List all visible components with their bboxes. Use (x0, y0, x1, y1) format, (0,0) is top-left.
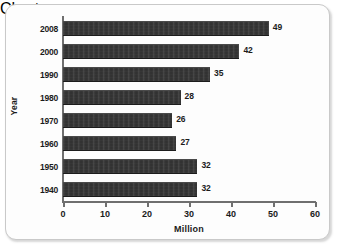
bar-value-label: 32 (201, 183, 210, 193)
x-axis-tick-mark (189, 202, 191, 207)
bar-row: 49 (63, 21, 315, 36)
x-axis-tick-label: 20 (132, 209, 162, 219)
bar-value-label: 49 (273, 22, 282, 32)
y-axis-tick-label: 2008 (26, 24, 58, 34)
x-axis-title: Million (63, 224, 315, 234)
y-axis-tick-label: 1990 (26, 70, 58, 80)
chart-card: Year 20082000199019801970196019501940 49… (5, 4, 330, 240)
bar-row: 32 (63, 159, 315, 174)
x-axis-tick-mark (315, 202, 317, 207)
x-axis-tick-mark (273, 202, 275, 207)
bar (63, 159, 197, 174)
y-axis-tick-label: 1940 (26, 185, 58, 195)
x-axis-tick-label: 30 (174, 209, 204, 219)
bar-row: 28 (63, 90, 315, 105)
bar-value-label: 35 (214, 68, 223, 78)
bar (63, 44, 239, 59)
y-axis-tick-label: 2000 (26, 47, 58, 57)
x-axis-tick-label: 40 (216, 209, 246, 219)
bar-row: 27 (63, 136, 315, 151)
x-axis-tick-mark (63, 202, 65, 207)
bar-row: 35 (63, 67, 315, 82)
bar-row: 32 (63, 182, 315, 197)
bar-row: 26 (63, 113, 315, 128)
y-axis-tick-label: 1980 (26, 93, 58, 103)
x-axis-tick-label: 60 (300, 209, 330, 219)
plot-area: 4942352826273232 (63, 17, 315, 201)
y-axis-tick-label: 1960 (26, 139, 58, 149)
bar (63, 21, 269, 36)
bar-value-label: 32 (201, 160, 210, 170)
x-axis-tick-mark (231, 202, 233, 207)
bar (63, 67, 210, 82)
bar-value-label: 26 (176, 114, 185, 124)
bar (63, 182, 197, 197)
bar-value-label: 42 (243, 45, 252, 55)
bar (63, 90, 181, 105)
bar-row: 42 (63, 44, 315, 59)
x-axis-tick-label: 10 (90, 209, 120, 219)
bar-value-label: 28 (185, 91, 194, 101)
bar-value-label: 27 (180, 137, 189, 147)
x-axis-tick-mark (105, 202, 107, 207)
y-axis-title: Year (9, 84, 19, 128)
x-axis-tick-mark (147, 202, 149, 207)
bar (63, 113, 172, 128)
y-axis-tick-label: 1950 (26, 162, 58, 172)
y-axis-tick-labels: 20082000199019801970196019501940 (24, 17, 58, 201)
bar (63, 136, 176, 151)
y-axis-tick-label: 1970 (26, 116, 58, 126)
x-axis-tick-label: 0 (48, 209, 78, 219)
x-axis-tick-label: 50 (258, 209, 288, 219)
